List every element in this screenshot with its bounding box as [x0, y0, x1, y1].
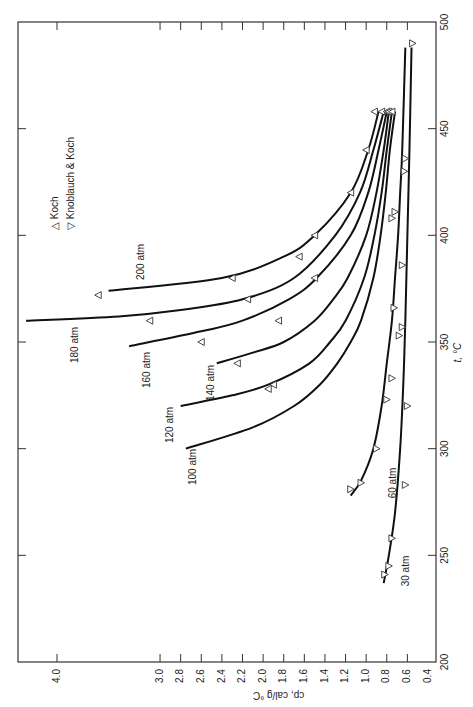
legend-knoblauch-koch: ▽ Knoblauch & Koch: [65, 137, 76, 230]
cp-vs-temperature-chart: 200250300350400450500t, °C0.40.60.81.01.…: [0, 0, 473, 707]
knoblauch-koch-marker: [396, 332, 403, 339]
y-tick-label: 3.0: [154, 669, 165, 683]
data-markers: [95, 40, 416, 578]
y-tick-label: 1.2: [339, 669, 350, 683]
x-axis-title: t, °C: [452, 342, 463, 362]
curve-30-atm: [384, 48, 412, 583]
chart-container: 200250300350400450500t, °C0.40.60.81.01.…: [0, 0, 473, 707]
curve-label: 120 atm: [164, 407, 175, 443]
y-tick-label: 2.6: [195, 669, 206, 683]
x-tick-label: 300: [439, 440, 450, 457]
koch-marker: [371, 108, 378, 115]
curves: [26, 48, 411, 583]
x-tick-label: 250: [439, 547, 450, 564]
y-tick-label: 1.0: [360, 669, 371, 683]
knoblauch-koch-marker: [389, 375, 396, 382]
knoblauch-koch-marker: [401, 168, 408, 175]
koch-marker: [296, 253, 303, 260]
y-tick-label: 1.6: [298, 669, 309, 683]
knoblauch-koch-marker: [386, 563, 393, 570]
curve-120-atm: [181, 112, 392, 406]
knoblauch-koch-marker: [389, 215, 396, 222]
koch-marker: [244, 296, 251, 303]
koch-marker: [95, 292, 102, 299]
curve-label: 100 atm: [187, 449, 198, 485]
plot-frame: [18, 22, 436, 662]
y-tick-label: 4.0: [51, 669, 62, 683]
knoblauch-koch-marker: [399, 262, 406, 269]
labels: 30 atm60 atm100 atm120 atm140 atm160 atm…: [49, 137, 411, 586]
koch-marker: [198, 339, 205, 346]
x-tick-label: 200: [439, 653, 450, 670]
y-axis-title: cp, cal/g °C: [253, 690, 304, 701]
koch-marker: [275, 317, 282, 324]
x-tick-label: 450: [439, 120, 450, 137]
koch-marker: [146, 317, 153, 324]
y-tick-label: 0.4: [422, 669, 433, 683]
curve-label: 180 atm: [69, 327, 80, 363]
legend-koch: △ Koch: [49, 196, 60, 230]
knoblauch-koch-marker: [404, 403, 411, 410]
curve-180-atm: [26, 112, 384, 321]
y-tick-label: 2.8: [174, 669, 185, 683]
y-tick-label: 2.4: [216, 669, 227, 683]
x-tick-label: 500: [439, 13, 450, 30]
knoblauch-koch-marker: [384, 396, 391, 403]
curve-200-atm: [109, 112, 379, 291]
knoblauch-koch-marker: [391, 304, 398, 311]
y-tick-label: 1.4: [319, 669, 330, 683]
curve-label: 200 atm: [135, 244, 146, 280]
curve-label: 160 atm: [141, 352, 152, 388]
koch-marker: [363, 147, 370, 154]
curve-label: 30 atm: [400, 556, 411, 587]
koch-marker: [234, 360, 241, 367]
knoblauch-koch-marker: [410, 40, 417, 47]
curve-label: 60 atm: [387, 468, 398, 499]
curve-label: 140 atm: [205, 365, 216, 401]
y-tick-label: 2.2: [236, 669, 247, 683]
knoblauch-koch-marker: [402, 481, 409, 488]
y-tick-label: 1.8: [277, 669, 288, 683]
knoblauch-koch-marker: [373, 445, 380, 452]
y-tick-label: 0.6: [401, 669, 412, 683]
x-tick-label: 350: [439, 333, 450, 350]
y-tick-label: 0.8: [380, 669, 391, 683]
y-tick-label: 2.0: [257, 669, 268, 683]
x-tick-label: 400: [439, 227, 450, 244]
knoblauch-koch-marker: [392, 208, 399, 215]
knoblauch-koch-marker: [402, 155, 409, 162]
